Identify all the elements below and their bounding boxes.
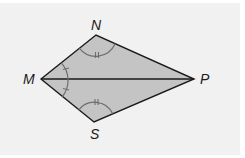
kite-diagram: N M P S xyxy=(0,0,245,158)
vertex-label-n: N xyxy=(91,17,102,33)
vertex-label-s: S xyxy=(90,126,100,142)
vertex-label-m: M xyxy=(23,71,35,87)
vertex-label-p: P xyxy=(200,71,210,87)
diagram-canvas: N M P S xyxy=(0,0,245,158)
